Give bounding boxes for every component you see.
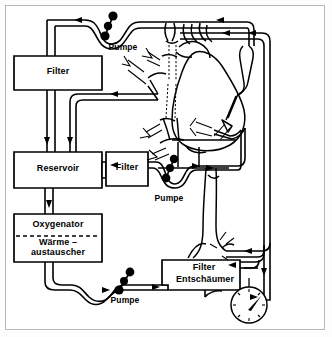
label-filter-mid: Filter: [107, 163, 147, 172]
label-oxygenator: Oxygenator: [18, 220, 98, 229]
arrow-down-res1: [44, 137, 50, 145]
arrow-left-suction: [244, 248, 252, 254]
label-filter-top: Filter: [36, 67, 80, 76]
label-pumpe-mid: Pumpe: [146, 194, 192, 203]
label-entschaeumer: Entschäumer: [166, 275, 244, 284]
label-pumpe-top: Pumpe: [100, 43, 146, 52]
diagram-root: .tube{fill:none;stroke:#000;stroke-width…: [0, 0, 332, 337]
arrow-up-rail: [261, 268, 267, 276]
arrow-down-res2: [67, 137, 73, 145]
arrow-left-rail: [222, 30, 230, 36]
heart-anatomy: [122, 23, 253, 260]
arrow-down-oxy: [46, 200, 52, 208]
arrow-left-venous: [110, 91, 118, 97]
tube-venous-left: [70, 94, 158, 152]
arrow-right-bottom2: [102, 287, 110, 293]
arrow-left-top: [74, 17, 82, 23]
label-waermeaustauscher-line2: austauscher: [14, 248, 102, 257]
reservoir-box: [14, 152, 106, 214]
label-reservoir: Reservoir: [22, 164, 94, 173]
label-pumpe-bottom: Pumpe: [102, 296, 148, 305]
label-filter-defoamer-line1: Filter: [180, 263, 228, 272]
